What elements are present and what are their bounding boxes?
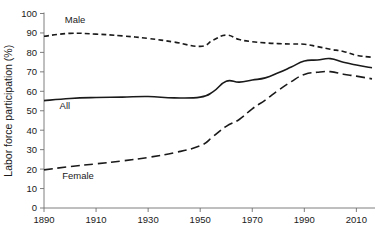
female-label: Female bbox=[62, 170, 94, 181]
series-line-all bbox=[44, 59, 372, 101]
y-tick-label: 60 bbox=[26, 86, 37, 97]
x-tick-label: 1890 bbox=[33, 214, 54, 225]
all-label: All bbox=[60, 100, 71, 111]
series-line-female bbox=[44, 71, 372, 169]
y-axis-ticks: 0102030405060708090100 bbox=[21, 8, 44, 214]
y-tick-label: 40 bbox=[26, 125, 37, 136]
line-chart: 0102030405060708090100 18901910193019501… bbox=[0, 0, 381, 246]
y-tick-label: 70 bbox=[26, 66, 37, 77]
x-tick-label: 1990 bbox=[294, 214, 315, 225]
x-tick-label: 1970 bbox=[242, 214, 263, 225]
y-tick-label: 30 bbox=[26, 144, 37, 155]
y-axis: 0102030405060708090100 bbox=[21, 8, 44, 214]
chart-figure: 0102030405060708090100 18901910193019501… bbox=[0, 0, 381, 246]
x-tick-label: 2010 bbox=[346, 214, 367, 225]
y-tick-label: 20 bbox=[26, 164, 37, 175]
y-axis-title: Labor force participation (%) bbox=[2, 45, 14, 177]
x-tick-label: 1910 bbox=[85, 214, 106, 225]
x-axis-ticks: 1890191019301950197019902010 bbox=[33, 208, 367, 225]
data-series-group bbox=[44, 33, 372, 170]
series-line-male bbox=[44, 33, 372, 57]
x-tick-label: 1930 bbox=[138, 214, 159, 225]
y-tick-label: 0 bbox=[32, 202, 37, 213]
y-tick-label: 90 bbox=[26, 27, 37, 38]
x-axis: 1890191019301950197019902010 bbox=[33, 208, 375, 225]
male-label: Male bbox=[65, 14, 86, 25]
y-tick-label: 50 bbox=[26, 105, 37, 116]
y-tick-label: 80 bbox=[26, 47, 37, 58]
y-tick-label: 10 bbox=[26, 183, 37, 194]
y-tick-label: 100 bbox=[21, 8, 37, 19]
x-tick-label: 1950 bbox=[190, 214, 211, 225]
